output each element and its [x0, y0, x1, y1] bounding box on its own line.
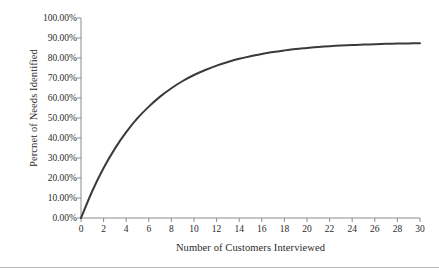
axis-lines [81, 18, 420, 218]
plot-area [0, 0, 439, 275]
y-axis-tick-marks [77, 18, 81, 218]
bottom-divider [0, 267, 439, 268]
chart-figure: Percnet of Needs Identified 0.00%10.00%2… [0, 0, 439, 275]
x-axis-tick-marks [81, 218, 420, 222]
data-series-line [81, 43, 420, 218]
